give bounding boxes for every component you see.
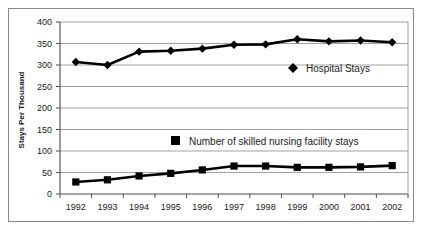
x-tick-label: 1998 [256, 202, 276, 212]
x-tick-label: 1995 [161, 202, 181, 212]
legend-label-hospital-stays: Hospital Stays [306, 63, 370, 74]
data-point-diamond [261, 40, 269, 48]
y-tick-label: 400 [37, 17, 52, 27]
x-tick-label: 1993 [97, 202, 117, 212]
data-point-square [357, 163, 364, 170]
y-tick-label: 50 [42, 168, 52, 178]
data-point-square [389, 162, 396, 169]
x-tick-label: 1994 [129, 202, 149, 212]
x-tick-label: 2000 [319, 202, 339, 212]
legend-label-snf-stays: Number of skilled nursing facility stays [189, 136, 359, 147]
data-point-square [262, 162, 269, 169]
diamond-marker-icon [288, 63, 298, 73]
y-tick-label: 150 [37, 125, 52, 135]
y-tick-label: 0 [47, 189, 52, 199]
data-point-diamond [135, 47, 143, 55]
data-point-square [72, 178, 79, 185]
data-point-square [104, 176, 111, 183]
data-point-square [325, 164, 332, 171]
y-tick-label: 300 [37, 60, 52, 70]
y-tick-label: 350 [37, 39, 52, 49]
x-tick-label: 1999 [287, 202, 307, 212]
x-tick-label: 1992 [66, 202, 86, 212]
line-chart: 050100150200250300350400 199219931994199… [0, 0, 425, 233]
x-tick-label: 2002 [382, 202, 402, 212]
y-tick-label: 250 [37, 82, 52, 92]
y-tick-label: 100 [37, 146, 52, 156]
data-point-diamond [198, 44, 206, 52]
data-point-diamond [230, 41, 238, 49]
data-point-diamond [388, 38, 396, 46]
chart-figure: 050100150200250300350400 199219931994199… [0, 0, 425, 233]
data-point-square [199, 166, 206, 173]
legend-item-snf-stays: Number of skilled nursing facility stays [171, 136, 359, 147]
y-axis-title: Stays Per Thousand [17, 71, 26, 148]
x-tick-label: 1996 [192, 202, 212, 212]
data-point-square [294, 164, 301, 171]
data-series [72, 35, 397, 186]
series-2 [72, 162, 396, 186]
square-marker-icon [171, 136, 180, 145]
data-point-square [135, 172, 142, 179]
x-tick-label: 2001 [351, 202, 371, 212]
x-tick-label: 1997 [224, 202, 244, 212]
data-point-diamond [167, 47, 175, 55]
legend-item-hospital-stays: Hospital Stays [288, 63, 370, 74]
x-axis-ticks: 1992199319941995199619971998199920002001… [60, 194, 408, 212]
data-point-square [167, 170, 174, 177]
data-point-diamond [293, 35, 301, 43]
y-tick-label: 200 [37, 103, 52, 113]
data-point-square [230, 162, 237, 169]
data-point-diamond [325, 37, 333, 45]
data-point-diamond [103, 61, 111, 69]
y-axis-ticks: 050100150200250300350400 [37, 17, 60, 199]
